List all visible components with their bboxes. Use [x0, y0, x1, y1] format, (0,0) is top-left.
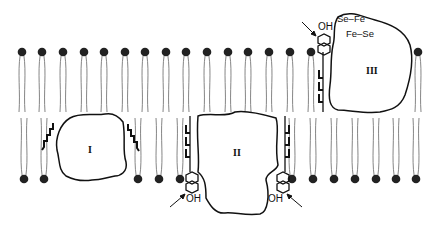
lipid-head-icon — [203, 48, 212, 57]
lipid-head-icon — [18, 48, 27, 57]
lipid-head-icon — [286, 48, 295, 57]
lipid-head-icon — [59, 48, 68, 57]
cholesterol-icon — [42, 123, 53, 150]
lipid-head-icon — [330, 175, 339, 184]
sterol-ring-icon — [318, 34, 330, 55]
protein-II-label: II — [233, 148, 241, 158]
lipid-head-icon — [20, 175, 29, 184]
lipid-head-icon — [414, 48, 423, 57]
hydroxyl-label: OH — [186, 194, 201, 204]
lipid-head-icon — [40, 175, 49, 184]
lipid-head-icon — [351, 175, 360, 184]
lipid-head-icon — [309, 175, 318, 184]
lipid-head-icon — [80, 48, 89, 57]
lipid-head-icon — [155, 175, 164, 184]
protein-III-label: III — [366, 66, 378, 76]
protein-II-outline — [197, 111, 278, 214]
lipid-head-icon — [412, 175, 421, 184]
lipid-head-icon — [224, 48, 233, 57]
hydroxyl-label: OH — [318, 22, 333, 32]
lipid-head-icon — [100, 48, 109, 57]
lipid-head-icon — [392, 175, 401, 184]
lipid-head-icon — [244, 48, 253, 57]
lipid-head-icon — [265, 48, 274, 57]
lipid-head-icon — [141, 48, 150, 57]
lipid-head-icon — [134, 175, 143, 184]
lipid-head-icon — [307, 48, 316, 57]
lipid-head-icon — [121, 48, 130, 57]
hydroxyl-label: OH — [268, 194, 283, 204]
lipid-head-icon — [182, 48, 191, 57]
se-fe-label: Se–Fe — [337, 14, 365, 24]
protein-I-label: I — [88, 145, 92, 155]
fe-se-label: Fe–Se — [346, 29, 374, 39]
cholesterol-icon — [128, 124, 139, 151]
lipid-head-icon — [162, 48, 171, 57]
lipid-head-icon — [176, 175, 185, 184]
membrane-diagram: I II III OH OH OH Se–Fe Fe–Se — [0, 0, 436, 227]
lipid-head-icon — [38, 48, 47, 57]
lipid-head-icon — [372, 175, 381, 184]
